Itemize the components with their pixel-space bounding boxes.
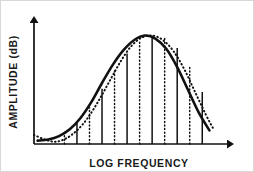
solid-response-curve: [38, 36, 210, 141]
x-axis-label: LOG FREQUENCY: [89, 157, 188, 169]
chart-canvas: LOG FREQUENCY AMPLITUDE (dB): [1, 1, 254, 172]
vertical-band-lines: [64, 36, 202, 144]
chart-axes: [34, 21, 229, 144]
chart-figure: LOG FREQUENCY AMPLITUDE (dB): [0, 0, 254, 172]
y-axis-label: AMPLITUDE (dB): [7, 35, 19, 129]
